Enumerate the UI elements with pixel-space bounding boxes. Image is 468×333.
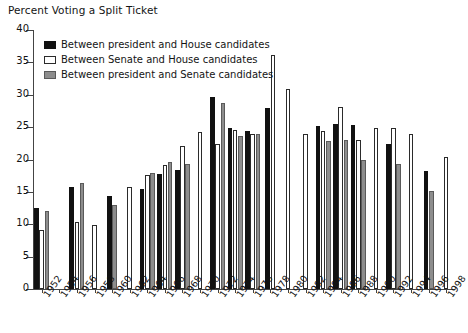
bar xyxy=(127,187,132,289)
bar xyxy=(210,97,215,289)
legend-swatch-black xyxy=(44,41,56,49)
bar xyxy=(80,183,85,289)
y-axis-tick-label: 30 xyxy=(16,88,29,99)
legend-item-label: Between Senate and House candidates xyxy=(61,54,258,65)
chart-legend: Between president and House candidatesBe… xyxy=(44,38,273,81)
bar xyxy=(351,125,356,289)
bar xyxy=(185,164,190,289)
bar xyxy=(424,171,429,289)
bar xyxy=(386,144,391,289)
y-axis-tick-label: 15 xyxy=(16,185,29,196)
bar-group xyxy=(279,30,297,289)
bar-group xyxy=(385,30,403,289)
bar xyxy=(250,134,255,289)
bar xyxy=(157,174,162,289)
bar xyxy=(145,175,150,289)
y-axis-tick-label: 35 xyxy=(16,55,29,66)
bar xyxy=(374,128,379,289)
bar-group xyxy=(332,30,350,289)
bar xyxy=(356,140,361,289)
bar xyxy=(168,162,173,289)
bar xyxy=(228,128,233,289)
bar xyxy=(326,141,331,289)
bar-group xyxy=(297,30,315,289)
bar xyxy=(238,136,243,289)
bar xyxy=(271,55,276,289)
bar xyxy=(233,130,238,289)
legend-item: Between president and Senate candidates xyxy=(44,68,273,81)
bar xyxy=(175,170,180,289)
legend-swatch-white xyxy=(44,56,56,64)
bar xyxy=(444,157,449,289)
bar xyxy=(338,107,343,289)
bar xyxy=(344,140,349,289)
y-axis-tick-label: 25 xyxy=(16,120,29,131)
y-axis-tick-label: 20 xyxy=(16,153,29,164)
legend-item: Between president and House candidates xyxy=(44,38,273,51)
bar-group xyxy=(437,30,455,289)
bar xyxy=(215,144,220,289)
bar xyxy=(256,134,261,289)
y-axis-tick-label: 5 xyxy=(23,250,29,261)
bar xyxy=(245,131,250,289)
bar xyxy=(391,128,396,289)
bar xyxy=(45,211,50,289)
bar xyxy=(409,134,414,289)
y-axis-tick-label: 10 xyxy=(16,217,29,228)
legend-item: Between Senate and House candidates xyxy=(44,53,273,66)
bar-group xyxy=(420,30,438,289)
legend-swatch-gray xyxy=(44,71,56,79)
bar xyxy=(396,164,401,289)
bar xyxy=(303,134,308,289)
bar xyxy=(316,126,321,289)
bar xyxy=(39,230,44,289)
bar xyxy=(286,89,291,289)
bar xyxy=(333,124,338,289)
bar xyxy=(361,160,366,289)
bar-group xyxy=(367,30,385,289)
bar xyxy=(198,132,203,289)
bar xyxy=(163,165,168,289)
bar xyxy=(34,208,39,289)
bar-group xyxy=(314,30,332,289)
chart-title: Percent Voting a Split Ticket xyxy=(8,4,158,16)
bar xyxy=(150,173,155,289)
bar xyxy=(180,146,185,289)
bar-group xyxy=(402,30,420,289)
bar xyxy=(221,103,226,289)
bar xyxy=(265,108,270,289)
bar xyxy=(429,191,434,289)
y-axis-tick-label: 0 xyxy=(23,282,29,293)
legend-item-label: Between president and Senate candidates xyxy=(61,69,273,80)
legend-item-label: Between president and House candidates xyxy=(61,39,270,50)
y-axis-tick-label: 40 xyxy=(16,23,29,34)
bar xyxy=(321,131,326,289)
bar-group xyxy=(350,30,368,289)
